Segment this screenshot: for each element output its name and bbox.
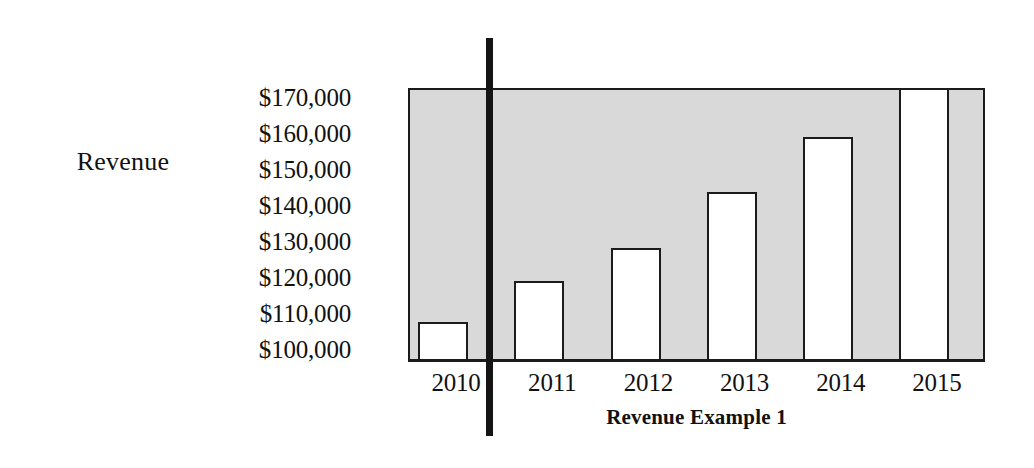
bar <box>611 248 661 359</box>
chart-title: Revenue Example 1 <box>408 404 985 430</box>
y-tick-label: $110,000 <box>206 296 351 332</box>
x-tick-label: 2015 <box>889 366 985 400</box>
bar <box>899 88 949 359</box>
bar <box>707 192 757 359</box>
bars-layer <box>410 90 983 359</box>
y-tick-label: $160,000 <box>206 116 351 152</box>
bar <box>418 322 468 359</box>
bar <box>803 137 853 359</box>
bar <box>514 281 564 359</box>
plot-area <box>408 88 985 362</box>
x-tick-label: 2012 <box>600 366 696 400</box>
x-tick-label: 2011 <box>504 366 600 400</box>
y-axis-tick-labels: $170,000 $160,000 $150,000 $140,000 $130… <box>206 80 351 368</box>
y-tick-label: $120,000 <box>206 260 351 296</box>
x-axis-tick-labels: 201020112012201320142015 <box>408 366 985 404</box>
y-axis-title: Revenue <box>38 146 208 178</box>
vertical-divider-line <box>486 38 493 436</box>
x-tick-label: 2014 <box>793 366 889 400</box>
y-tick-label: $130,000 <box>206 224 351 260</box>
y-tick-label: $100,000 <box>206 332 351 368</box>
y-tick-label: $140,000 <box>206 188 351 224</box>
x-tick-label: 2013 <box>697 366 793 400</box>
y-tick-label: $150,000 <box>206 152 351 188</box>
revenue-bar-chart: Revenue $170,000 $160,000 $150,000 $140,… <box>0 0 1034 468</box>
y-tick-label: $170,000 <box>206 80 351 116</box>
